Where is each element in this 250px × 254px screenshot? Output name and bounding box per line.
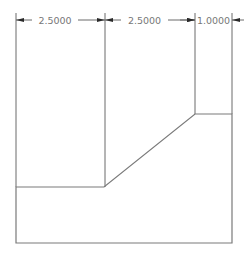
arrow-right-icon — [187, 18, 195, 22]
dimension-1: 2.5000 — [16, 15, 105, 26]
cad-drawing: 2.5000 2.5000 1.0000 — [0, 0, 250, 254]
dimension-2-label: 2.5000 — [128, 15, 161, 26]
arrow-left-icon — [105, 18, 113, 22]
dimension-3-label: 1.0000 — [197, 15, 230, 26]
arrow-right-icon — [97, 18, 105, 22]
dimension-1-label: 2.5000 — [38, 15, 71, 26]
dimension-3: 1.0000 — [180, 15, 244, 26]
part-outline — [16, 114, 232, 243]
arrow-left-icon — [16, 18, 24, 22]
arrow-left-icon — [232, 18, 240, 22]
